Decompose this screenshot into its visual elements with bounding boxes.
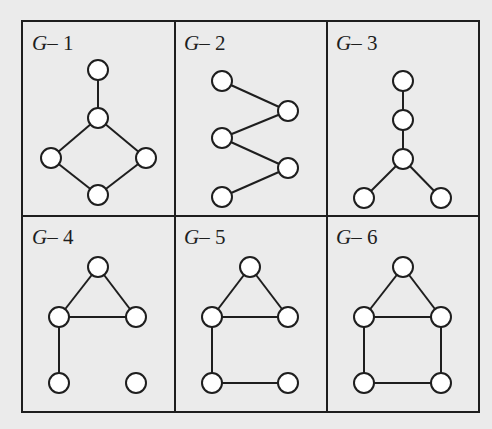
- label-number: 2: [215, 31, 226, 55]
- graph-panel-g-3: G– 3: [336, 31, 451, 208]
- label-dash: –: [46, 225, 63, 249]
- label-dash: –: [46, 31, 63, 55]
- panel-label: G– 2: [184, 31, 225, 55]
- label-number: 5: [215, 225, 226, 249]
- graph-node: [88, 257, 108, 277]
- graph-node: [41, 148, 61, 168]
- label-number: 4: [63, 225, 74, 249]
- panel-label: G– 4: [32, 225, 74, 249]
- graph-node: [278, 158, 298, 178]
- graph-node: [431, 373, 451, 393]
- graph-grid-figure: G– 1G– 2G– 3G– 4G– 5G– 6: [0, 0, 492, 429]
- graph-node: [49, 307, 69, 327]
- label-prefix: G: [336, 31, 351, 55]
- graph-node: [393, 257, 413, 277]
- graph-node: [278, 307, 298, 327]
- graph-node: [88, 60, 108, 80]
- graph-node: [393, 110, 413, 130]
- label-prefix: G: [184, 31, 199, 55]
- graph-node: [354, 307, 374, 327]
- graph-node: [240, 257, 260, 277]
- panel-label: G– 5: [184, 225, 225, 249]
- graph-node: [136, 148, 156, 168]
- graph-node: [88, 108, 108, 128]
- graph-node: [88, 185, 108, 205]
- graph-node: [393, 71, 413, 91]
- graph-node: [212, 128, 232, 148]
- panel-label: G– 1: [32, 31, 73, 55]
- graph-node: [354, 188, 374, 208]
- graph-node: [278, 373, 298, 393]
- graph-node: [202, 307, 222, 327]
- label-prefix: G: [336, 225, 351, 249]
- label-dash: –: [198, 225, 215, 249]
- graph-node: [126, 373, 146, 393]
- graph-node: [431, 188, 451, 208]
- graph-panel-g-1: G– 1: [32, 31, 156, 205]
- graph-panels: G– 1G– 2G– 3G– 4G– 5G– 6: [32, 31, 451, 393]
- panel-label: G– 6: [336, 225, 377, 249]
- label-number: 1: [63, 31, 74, 55]
- graph-node: [393, 149, 413, 169]
- label-dash: –: [350, 31, 367, 55]
- graph-node: [212, 187, 232, 207]
- label-dash: –: [350, 225, 367, 249]
- graph-node: [431, 307, 451, 327]
- graph-node: [212, 71, 232, 91]
- label-prefix: G: [32, 225, 47, 249]
- label-number: 3: [367, 31, 378, 55]
- graph-node: [49, 373, 69, 393]
- graph-panel-g-4: G– 4: [32, 225, 146, 393]
- graph-panel-g-5: G– 5: [184, 225, 298, 393]
- label-dash: –: [198, 31, 215, 55]
- panel-label: G– 3: [336, 31, 377, 55]
- graph-panel-g-6: G– 6: [336, 225, 451, 393]
- graph-panel-g-2: G– 2: [184, 31, 298, 207]
- graph-node: [126, 307, 146, 327]
- graph-node: [278, 101, 298, 121]
- label-number: 6: [367, 225, 378, 249]
- graph-node: [354, 373, 374, 393]
- label-prefix: G: [32, 31, 47, 55]
- label-prefix: G: [184, 225, 199, 249]
- graph-node: [202, 373, 222, 393]
